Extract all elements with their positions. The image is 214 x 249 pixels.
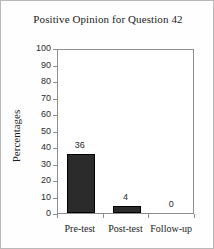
x-tick-mark (148, 214, 149, 218)
y-tick-label: 0 (21, 209, 51, 218)
y-tick-label: 80 (21, 77, 51, 86)
bar-data-label: 36 (60, 141, 100, 150)
y-axis-title: Percentages (10, 0, 22, 86)
y-tick-label: 90 (21, 61, 51, 70)
y-tick-label: 50 (21, 127, 51, 136)
x-tick-mark (57, 214, 58, 218)
y-tick-label: 40 (21, 143, 51, 152)
plot-area (57, 49, 194, 214)
y-tick-label: 30 (21, 160, 51, 169)
bar-data-label: 0 (151, 200, 191, 209)
y-tick-label: 100 (21, 44, 51, 53)
x-tick-mark (194, 214, 195, 218)
y-tick-label: 10 (21, 193, 51, 202)
bar[interactable] (67, 154, 95, 213)
bar[interactable] (113, 206, 141, 213)
y-tick-label: 70 (21, 94, 51, 103)
chart-title: Positive Opinion for Question 42 (1, 13, 214, 25)
x-category-label: Follow-up (136, 223, 206, 234)
y-tick-label: 60 (21, 110, 51, 119)
bar-data-label: 4 (106, 193, 146, 202)
x-tick-mark (103, 214, 104, 218)
y-tick-label: 20 (21, 176, 51, 185)
chart-figure: Positive Opinion for Question 42 Percent… (0, 0, 214, 249)
